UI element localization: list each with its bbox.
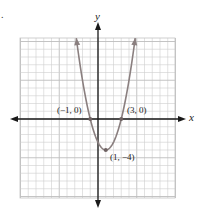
axes [10,22,186,208]
x-axis-left-arrow-icon [10,116,18,122]
point-label-right-root: (3, 0) [127,106,147,115]
key-point-marker [104,148,108,152]
y-axis-label: y [95,11,100,22]
x-axis-label: x [189,112,194,123]
point-label-left-root: (−1, 0) [57,106,82,115]
key-point-marker [88,117,92,121]
key-point-marker [119,117,123,121]
y-axis-up-arrow-icon [95,22,101,30]
x-axis-right-arrow-icon [178,116,186,122]
y-axis-down-arrow-icon [95,200,101,208]
graph [0,0,197,212]
point-label-vertex: (1, −4) [110,153,135,162]
